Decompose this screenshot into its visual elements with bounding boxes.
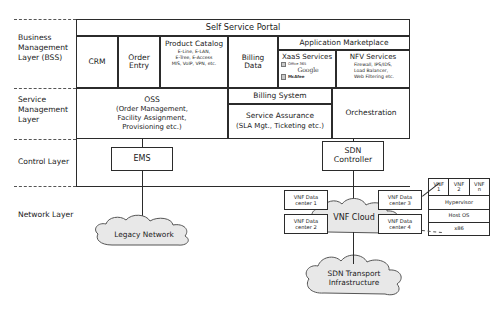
orchestration-label: Orchestration bbox=[345, 109, 396, 117]
layer-label-service-management: Service Management Layer bbox=[18, 95, 80, 125]
connector-oss-to-ems bbox=[142, 139, 143, 147]
crm-box[interactable]: CRM bbox=[76, 36, 118, 88]
service-assurance-title: Service Assurance bbox=[246, 112, 314, 120]
billing-data-label: Billing Data bbox=[242, 54, 265, 71]
connector-ems-to-legacy-network bbox=[142, 171, 143, 219]
legacy-network-cloud[interactable]: Legacy Network bbox=[88, 214, 200, 252]
self-service-portal-box[interactable]: Self Service Portal bbox=[76, 19, 410, 36]
vnf-instances-row: VNF 1 VNF 2 VNF n bbox=[429, 179, 489, 195]
xaas-services-box[interactable]: XaaS Services Office 365 Google McAfee bbox=[278, 50, 336, 88]
vnf-instance-n[interactable]: VNF n bbox=[469, 179, 489, 195]
vnf-data-center-1-label: VNF Data center 1 bbox=[294, 194, 318, 206]
layer-label-network: Network Layer bbox=[18, 210, 88, 220]
vnf-hardware-stack[interactable]: VNF 1 VNF 2 VNF n Hypervisor Host OS x86 bbox=[428, 178, 490, 236]
self-service-portal-label: Self Service Portal bbox=[206, 23, 280, 32]
host-os-row[interactable]: Host OS bbox=[429, 209, 489, 222]
vnf-data-center-1-box[interactable]: VNF Data center 1 bbox=[284, 190, 328, 210]
vnf-data-center-2-box[interactable]: VNF Data center 2 bbox=[284, 214, 328, 234]
mcafee-icon bbox=[281, 74, 286, 79]
service-assurance-detail: (SLA Mgt., Ticketing etc.) bbox=[236, 122, 324, 131]
layer-separator-control-network bbox=[14, 186, 76, 187]
billing-system-label: Billing System bbox=[253, 92, 306, 100]
layer-separator-bss-sml bbox=[14, 88, 76, 89]
nfv-services-title: NFV Services bbox=[350, 53, 396, 61]
product-catalog-detail: E-Line, E-LAN, E-Tree, E-Access MIS, VoI… bbox=[172, 49, 217, 67]
sdn-controller-label: SDN Controller bbox=[334, 147, 372, 164]
control-network-boundary-line bbox=[76, 186, 410, 187]
vnf-data-center-3-label: VNF Data center 3 bbox=[388, 194, 412, 206]
vnf-data-center-4-label: VNF Data center 4 bbox=[388, 218, 412, 230]
mcafee-label: McAfee bbox=[288, 75, 305, 79]
order-entry-box[interactable]: Order Entry bbox=[118, 36, 160, 88]
office365-icon bbox=[281, 62, 286, 67]
oss-title: OSS bbox=[144, 96, 160, 105]
vnf-instance-2[interactable]: VNF 2 bbox=[448, 179, 468, 195]
service-assurance-box[interactable]: Service Assurance (SLA Mgt., Ticketing e… bbox=[228, 104, 332, 139]
connector-vnf-cloud-to-sdn-transport bbox=[353, 232, 354, 264]
vnf-data-center-4-box[interactable]: VNF Data center 4 bbox=[378, 214, 422, 234]
mcafee-logo: McAfee bbox=[281, 74, 305, 79]
oss-detail: (Order Management, Facility Assignment, … bbox=[116, 105, 188, 131]
billing-data-box[interactable]: Billing Data bbox=[228, 36, 278, 88]
nfv-services-detail: Firewall, IPS/IDS, Load Balancer, Web Fi… bbox=[352, 62, 394, 80]
vnf-data-center-3-box[interactable]: VNF Data center 3 bbox=[378, 190, 422, 210]
billing-system-box[interactable]: Billing System bbox=[228, 88, 332, 104]
layer-separator-top bbox=[14, 19, 76, 20]
sdn-transport-cloud[interactable]: SDN Transport Infrastructure bbox=[300, 253, 408, 301]
product-catalog-box[interactable]: Product Catalog E-Line, E-LAN, E-Tree, E… bbox=[160, 36, 228, 88]
oss-box[interactable]: OSS (Order Management, Facility Assignme… bbox=[76, 88, 228, 139]
layer-label-bss: Business Management Layer (BSS) bbox=[18, 33, 80, 63]
crm-label: CRM bbox=[88, 58, 105, 67]
hardware-row[interactable]: x86 bbox=[429, 222, 489, 235]
connector-orchestration-to-sdn-controller bbox=[353, 139, 354, 141]
xaas-services-title: XaaS Services bbox=[282, 53, 332, 61]
architecture-diagram: Business Management Layer (BSS) Service … bbox=[0, 0, 495, 315]
layer-separator-sml-control bbox=[14, 139, 76, 140]
ems-label: EMS bbox=[133, 155, 150, 164]
order-entry-label: Order Entry bbox=[128, 54, 150, 71]
xaas-logo-group: Office 365 Google McAfee bbox=[279, 62, 335, 80]
layer-label-control: Control Layer bbox=[18, 157, 80, 167]
orchestration-box[interactable]: Orchestration bbox=[332, 88, 410, 139]
product-catalog-title: Product Catalog bbox=[165, 40, 223, 48]
sdn-controller-box[interactable]: SDN Controller bbox=[322, 141, 384, 171]
hypervisor-row[interactable]: Hypervisor bbox=[429, 195, 489, 208]
application-marketplace-label: Application Marketplace bbox=[300, 39, 389, 47]
vnf-data-center-2-label: VNF Data center 2 bbox=[294, 218, 318, 230]
nfv-services-box[interactable]: NFV Services Firewall, IPS/IDS, Load Bal… bbox=[336, 50, 410, 88]
ems-box[interactable]: EMS bbox=[111, 147, 173, 171]
application-marketplace-box[interactable]: Application Marketplace bbox=[278, 36, 410, 50]
